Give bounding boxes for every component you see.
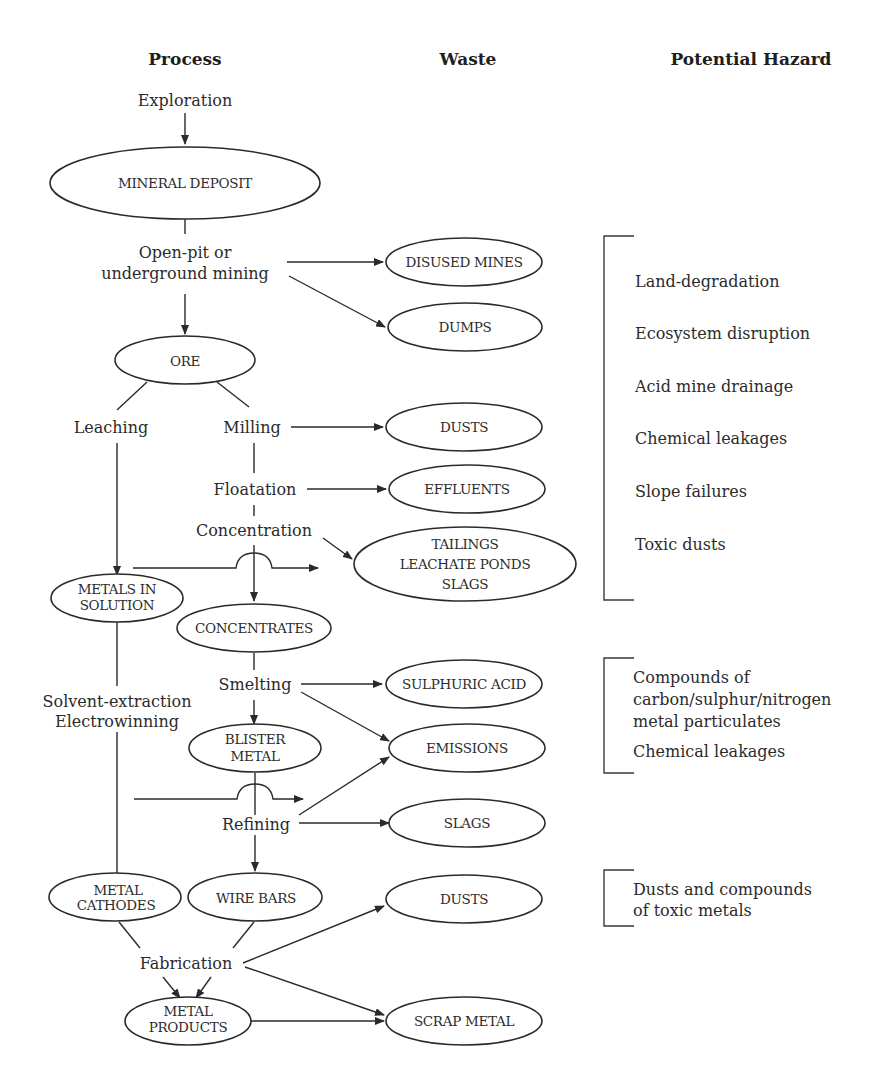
svg-text:MINERAL DEPOSIT: MINERAL DEPOSIT (118, 175, 252, 191)
bracket (604, 658, 634, 773)
svg-text:DISUSED MINES: DISUSED MINES (405, 254, 522, 270)
arrow-fabrication-to-products-left (163, 977, 180, 998)
waste-dumps: DUMPS (388, 303, 542, 351)
svg-text:Chemical leakages: Chemical leakages (633, 742, 785, 761)
step-floatation: Floatation (214, 480, 297, 499)
line-ore-to-leaching (117, 382, 147, 410)
svg-text:SLAGS: SLAGS (442, 576, 489, 592)
svg-text:Chemical leakages: Chemical leakages (635, 429, 787, 448)
arrow-refining-to-emissions (299, 757, 389, 815)
svg-text:BLISTER: BLISTER (225, 731, 287, 747)
svg-text:Compounds of: Compounds of (633, 668, 751, 687)
arrow-leaching-to-tailings-hop (133, 553, 318, 568)
header-process: Process (148, 49, 221, 69)
svg-text:CONCENTRATES: CONCENTRATES (195, 620, 313, 636)
waste-emissions: EMISSIONS (389, 724, 545, 772)
arrow-smelting-to-emissions (301, 692, 389, 741)
svg-text:metal particulates: metal particulates (633, 712, 781, 731)
svg-text:Acid mine drainage: Acid mine drainage (634, 377, 793, 396)
arrow-sx-residue-hop (134, 784, 303, 799)
line-wire-bars-to-fabrication (233, 922, 254, 948)
svg-text:LEACHATE PONDS: LEACHATE PONDS (400, 556, 531, 572)
step-sx-line2: Electrowinning (55, 712, 179, 731)
svg-text:METAL: METAL (93, 882, 142, 898)
hazard-group-fabrication: Dusts and compounds of toxic metals (604, 870, 812, 926)
svg-text:METALS IN: METALS IN (78, 581, 157, 597)
waste-slags: SLAGS (389, 799, 545, 847)
svg-text:Slope failures: Slope failures (635, 482, 747, 501)
waste-scrap-metal: SCRAP METAL (386, 997, 542, 1045)
step-refining: Refining (222, 815, 290, 834)
svg-text:Land-degradation: Land-degradation (635, 272, 780, 291)
line-ore-to-milling (217, 382, 249, 407)
waste-dusts-fabrication: DUSTS (386, 875, 542, 923)
node-ore: ORE (115, 336, 255, 384)
process-steps: Exploration Open-pit or underground mini… (43, 91, 312, 973)
svg-text:EFFLUENTS: EFFLUENTS (424, 481, 509, 497)
step-mining-line1: Open-pit or (139, 243, 232, 262)
svg-text:SCRAP METAL: SCRAP METAL (414, 1013, 515, 1029)
arrow-mining-to-dumps (289, 276, 385, 327)
svg-text:TAILINGS: TAILINGS (431, 536, 498, 552)
node-blister-metal: BLISTER METAL (189, 724, 321, 772)
node-metals-in-solution: METALS IN SOLUTION (51, 574, 183, 622)
step-mining-line2: underground mining (101, 264, 269, 283)
step-smelting: Smelting (219, 675, 292, 694)
waste-effluents: EFFLUENTS (389, 465, 545, 513)
svg-text:SOLUTION: SOLUTION (80, 597, 155, 613)
svg-text:DUSTS: DUSTS (440, 891, 488, 907)
step-fabrication: Fabrication (140, 954, 233, 973)
waste-sulphuric-acid: SULPHURIC ACID (386, 660, 542, 708)
svg-text:ORE: ORE (170, 353, 200, 369)
svg-text:of toxic metals: of toxic metals (633, 901, 752, 920)
svg-text:METAL: METAL (163, 1003, 212, 1019)
header-potential-hazard: Potential Hazard (671, 49, 832, 69)
waste-nodes: DISUSED MINES DUMPS DUSTS EFFLUENTS TAIL… (354, 238, 576, 1045)
svg-text:SULPHURIC ACID: SULPHURIC ACID (402, 676, 526, 692)
step-concentration: Concentration (196, 521, 312, 540)
header-waste: Waste (439, 49, 497, 69)
arrow-fabrication-to-scrap-metal (245, 967, 384, 1015)
waste-disused-mines: DISUSED MINES (386, 238, 542, 286)
svg-text:Dusts and compounds: Dusts and compounds (633, 880, 812, 899)
arrow-fabrication-to-products-right (196, 977, 211, 998)
step-milling: Milling (223, 418, 280, 437)
svg-text:METAL: METAL (230, 748, 279, 764)
mining-waste-flow-diagram: Process Waste Potential Hazard (0, 0, 884, 1092)
step-exploration: Exploration (138, 91, 232, 110)
svg-text:carbon/sulphur/nitrogen: carbon/sulphur/nitrogen (633, 690, 831, 709)
waste-dusts-milling: DUSTS (386, 403, 542, 451)
node-wire-bars: WIRE BARS (188, 873, 322, 921)
node-mineral-deposit: MINERAL DEPOSIT (50, 147, 320, 219)
node-concentrates: CONCENTRATES (177, 604, 331, 652)
svg-text:DUSTS: DUSTS (440, 419, 488, 435)
svg-text:EMISSIONS: EMISSIONS (426, 740, 508, 756)
bracket (604, 236, 634, 600)
step-sx-line1: Solvent-extraction (43, 692, 192, 711)
waste-tailings: TAILINGS LEACHATE PONDS SLAGS (354, 527, 576, 601)
svg-text:CATHODES: CATHODES (77, 897, 156, 913)
hazard-group-smelting: Compounds of carbon/sulphur/nitrogen met… (604, 658, 831, 773)
svg-text:WIRE BARS: WIRE BARS (216, 890, 296, 906)
svg-text:PRODUCTS: PRODUCTS (149, 1019, 228, 1035)
svg-text:Ecosystem disruption: Ecosystem disruption (635, 324, 810, 343)
arrow-concentration-to-tailings (323, 538, 352, 559)
bracket (604, 870, 634, 926)
node-metal-products: METAL PRODUCTS (125, 997, 251, 1045)
svg-text:Toxic dusts: Toxic dusts (635, 535, 726, 554)
line-cathodes-to-fabrication (119, 922, 140, 948)
hazard-group-mining: Land-degradation Ecosystem disruption Ac… (604, 236, 810, 600)
step-leaching: Leaching (74, 418, 149, 437)
svg-text:DUMPS: DUMPS (439, 319, 492, 335)
node-metal-cathodes: METAL CATHODES (49, 873, 181, 921)
svg-text:SLAGS: SLAGS (444, 815, 491, 831)
